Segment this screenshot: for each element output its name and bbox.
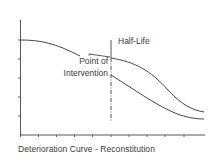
axes [20, 20, 205, 135]
original-curve [21, 40, 81, 56]
figure-caption: Deterioration Curve - Reconstitution [18, 144, 155, 154]
point-of-label: Point of [79, 56, 108, 66]
deterioration-chart: Half-Life Point of Intervention [0, 0, 218, 158]
half-life-label: Half-Life [118, 36, 150, 46]
lower-curve [111, 75, 204, 119]
intervention-label: Intervention [64, 68, 109, 78]
